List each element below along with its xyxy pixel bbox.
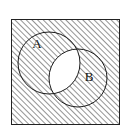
venn-diagram-figure: A B <box>0 0 129 133</box>
venn-diagram-canvas: A B <box>0 0 129 133</box>
circle-a-label: A <box>32 36 42 51</box>
circle-b-label: B <box>85 69 94 84</box>
hatched-background <box>12 20 120 125</box>
universal-set-fill <box>12 20 120 125</box>
